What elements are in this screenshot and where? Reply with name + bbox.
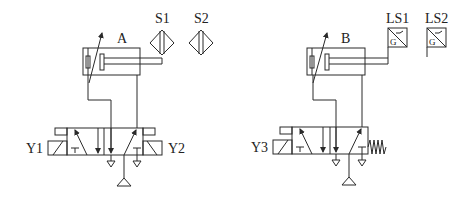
pressure-source-icon — [342, 177, 356, 185]
limit-switch-ls2: LS2 G — [425, 11, 448, 57]
solenoid-y3 — [273, 127, 292, 154]
valve-a — [48, 128, 162, 186]
proximity-sensor-icon — [150, 30, 174, 55]
pressure-source-icon — [117, 178, 131, 186]
limit-switch-ls2-label: LS2 — [425, 11, 448, 26]
solenoid-y1 — [48, 128, 67, 155]
solenoid-y1-label: Y1 — [26, 141, 43, 156]
cylinder-a-label: A — [117, 31, 128, 46]
limit-switch-ls1-label: LS1 — [386, 11, 409, 26]
solenoid-y2-label: Y2 — [168, 141, 185, 156]
limit-switch-g-text: G — [390, 37, 397, 47]
exhaust-icon — [332, 160, 340, 166]
circuit-a: A S1 S2 — [26, 11, 213, 186]
sensor-s2: S2 — [189, 11, 213, 55]
exhaust-icon — [358, 160, 366, 166]
exhaust-icon — [133, 161, 141, 167]
exhaust-icon — [107, 161, 115, 167]
sensor-s1-label: S1 — [155, 11, 170, 26]
proximity-sensor-icon — [189, 30, 213, 55]
cylinder-b-label: B — [341, 31, 350, 46]
cylinder-a — [83, 33, 162, 128]
spring-icon — [368, 140, 386, 154]
solenoid-y2 — [143, 128, 162, 155]
limit-switch-ls1: LS1 G — [386, 11, 409, 58]
cylinder-b — [307, 33, 388, 127]
solenoid-y3-label: Y3 — [251, 140, 268, 155]
pneumatic-diagram: A S1 S2 — [0, 0, 471, 200]
sensor-s2-label: S2 — [194, 11, 209, 26]
valve-b — [273, 127, 386, 185]
circuit-b: B LS1 G LS2 G — [251, 11, 448, 185]
limit-switch-g-text: G — [429, 37, 436, 47]
sensor-s1: S1 — [150, 11, 174, 55]
